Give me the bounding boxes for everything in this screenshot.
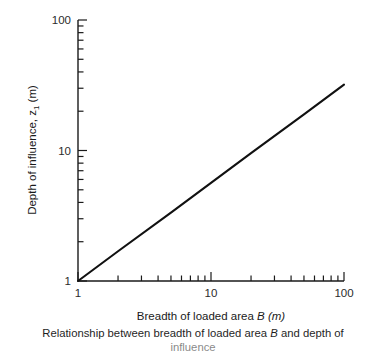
data-series-line [78, 85, 344, 281]
x-tick-label: 10 [205, 287, 218, 299]
x-axis-title: Breadth of loaded area B (m) [137, 310, 285, 322]
x-tick-label: 100 [334, 287, 353, 299]
y-tick-label: 100 [52, 14, 71, 26]
y-axis-tick-labels: 110100 [52, 14, 71, 287]
y-tick-label: 10 [58, 145, 71, 157]
x-axis-ticks [78, 272, 344, 281]
caption-line-2: influence [0, 340, 386, 354]
x-axis-tick-labels: 110100 [75, 287, 354, 299]
figure-caption: Relationship between breadth of loaded a… [0, 326, 386, 354]
caption-line-1: Relationship between breadth of loaded a… [0, 326, 386, 340]
y-axis-ticks [78, 20, 87, 281]
y-tick-label: 1 [65, 275, 71, 287]
x-tick-label: 1 [75, 287, 81, 299]
y-axis-title: Depth of influence, z1 (m) [26, 85, 41, 215]
